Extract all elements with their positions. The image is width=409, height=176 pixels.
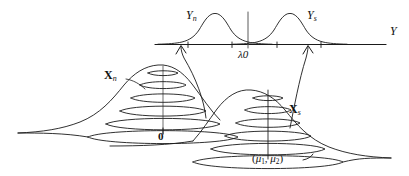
label-x-signal: Xs	[289, 103, 301, 115]
label-y-axis: Y	[390, 25, 397, 37]
yn-density-curve	[158, 13, 272, 44]
xs-surface-silhouette	[193, 90, 391, 158]
label-x-noise: Xn	[104, 69, 117, 81]
label-y-signal: Ys	[307, 9, 317, 21]
statistical-detection-figure: Yn Ys Y λ0 Xn Xs 0 (μ1, μ2)	[0, 0, 409, 176]
label-threshold-lambda0: λ0	[238, 49, 248, 60]
xs-base-skirt-right	[343, 158, 391, 162]
xn-base-skirt-left	[18, 133, 88, 137]
label-origin: 0	[158, 131, 164, 142]
ys-density-curve	[233, 13, 347, 44]
label-y-noise: Yn	[186, 9, 197, 21]
figure-canvas	[0, 0, 409, 176]
xn-surface-silhouette	[18, 65, 220, 133]
label-mean-point: (μ1, μ2)	[252, 153, 283, 164]
